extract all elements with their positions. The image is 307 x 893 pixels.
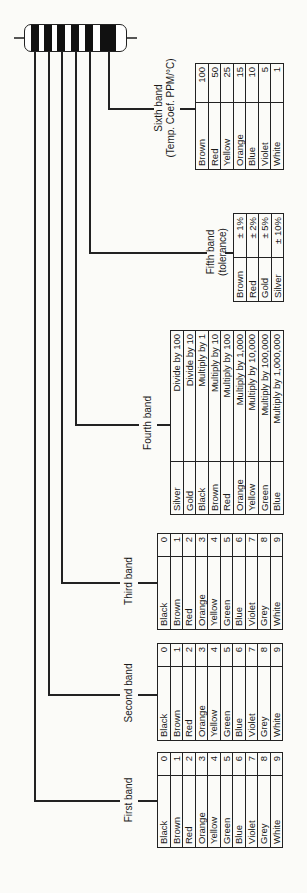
table-row: Orange3: [195, 753, 208, 848]
table-sixth-band: Brown100Red50Yellow25Orange15Blue10Viole…: [195, 63, 284, 170]
leader-line-1: [34, 52, 36, 801]
resistor-band-6: [100, 25, 116, 51]
table-fourth-band: SilverDivide by 100GoldDivide by 10Black…: [170, 330, 284, 515]
table-row: White9: [270, 534, 283, 630]
value-cell: 25: [221, 64, 234, 103]
value-cell: Multiply by 1,000,000: [271, 331, 284, 462]
color-cell: Red: [183, 775, 196, 847]
table-row: Black0: [158, 753, 171, 848]
label-second-band: Second band: [123, 658, 135, 728]
value-cell: 0: [158, 644, 171, 667]
table-row: Black0: [158, 644, 171, 741]
table-row: BrownMultiply by 10: [208, 331, 221, 515]
color-cell: Brown: [234, 257, 247, 301]
value-cell: 7: [245, 644, 258, 667]
table-row: YellowMultiply by 10,000: [246, 331, 259, 515]
resistor-lead-left: [14, 37, 24, 39]
label-fifth-band: Fifth band (tolerance): [205, 220, 229, 284]
table-row: Brown± 1%: [234, 214, 247, 302]
label-fifth-band-text: Fifth band: [205, 220, 217, 284]
label-first-band: First band: [123, 770, 135, 830]
color-cell: Brown: [208, 462, 221, 515]
value-cell: 6: [233, 644, 246, 667]
leader-h-3: [61, 582, 120, 584]
label-third-band: Third band: [123, 551, 135, 611]
value-cell: Divide by 100: [171, 331, 184, 462]
color-cell: Grey: [258, 775, 271, 847]
leader-h-2b: [138, 694, 157, 696]
leader-h-1b: [138, 800, 157, 802]
resistor-band-2: [44, 25, 52, 51]
table-row: BlackMultiply by 1: [196, 331, 209, 515]
value-cell: 7: [245, 534, 258, 557]
color-cell: Violet: [245, 775, 258, 847]
color-cell: Brown: [170, 775, 183, 847]
value-cell: 7: [245, 753, 258, 776]
value-cell: 9: [270, 644, 283, 667]
color-cell: Green: [220, 775, 233, 847]
color-cell: Black: [158, 667, 171, 741]
table-row: Orange3: [195, 644, 208, 741]
value-cell: 6: [233, 534, 246, 557]
label-fifth-band-sub: (tolerance): [217, 220, 229, 284]
table-row: Blue6: [233, 644, 246, 741]
leader-h-6b: [180, 108, 195, 110]
value-cell: 4: [208, 753, 221, 776]
leader-line-3: [61, 52, 63, 582]
label-first-band-text: First band: [123, 778, 134, 822]
color-cell: Violet: [245, 557, 258, 630]
table-row: Red50: [208, 64, 221, 170]
color-cell: Blue: [246, 103, 259, 170]
leader-h-6: [108, 108, 154, 110]
table-third-band: Black0Brown1Red2Orange3Yellow4Green5Blue…: [157, 533, 283, 630]
table-row: Red2: [183, 534, 196, 630]
color-cell: Green: [220, 557, 233, 630]
leader-h-1: [34, 800, 120, 802]
table-row: OrangeMultiply by 1,000: [233, 331, 246, 515]
value-cell: 6: [233, 753, 246, 776]
value-cell: ± 10%: [271, 214, 284, 258]
color-cell: White: [270, 557, 283, 630]
value-cell: 50: [208, 64, 221, 103]
color-cell: Black: [158, 557, 171, 630]
table-row: Brown1: [170, 644, 183, 741]
table-second-band: Black0Brown1Red2Orange3Yellow4Green5Blue…: [157, 643, 283, 741]
value-cell: 2: [183, 644, 196, 667]
label-third-band-text: Third band: [123, 557, 134, 605]
color-cell: Gold: [183, 462, 196, 515]
leader-h-3b: [138, 582, 157, 584]
table-row: White9: [270, 753, 283, 848]
value-cell: 0: [158, 753, 171, 776]
color-cell: Blue: [233, 775, 246, 847]
label-sixth-band: Sixth band (Temp. Coef. PPM/°C): [153, 52, 177, 164]
value-cell: 9: [270, 753, 283, 776]
table-row: GoldDivide by 10: [183, 331, 196, 515]
color-cell: Green: [220, 667, 233, 741]
color-cell: Silver: [271, 257, 284, 301]
label-second-band-text: Second band: [123, 664, 134, 723]
label-sixth-band-sub: (Temp. Coef. PPM/°C): [165, 52, 177, 164]
table-row: Grey8: [258, 644, 271, 741]
value-cell: Multiply by 1,000: [233, 331, 246, 462]
table-fifth-band: Brown± 1%Red± 2%Gold± 5%Silver± 10%: [233, 213, 284, 302]
value-cell: 10: [246, 64, 259, 103]
leader-line-6: [108, 52, 110, 108]
table-row: Blue10: [246, 64, 259, 170]
table-row: Yellow4: [208, 534, 221, 630]
value-cell: 5: [220, 644, 233, 667]
table-row: Silver± 10%: [271, 214, 284, 302]
value-cell: ± 1%: [234, 214, 247, 258]
table-row: Yellow25: [221, 64, 234, 170]
color-cell: Blue: [271, 462, 284, 515]
table-row: SilverDivide by 100: [171, 331, 184, 515]
color-cell: Grey: [258, 667, 271, 741]
table-row: White9: [270, 644, 283, 741]
value-cell: 3: [195, 534, 208, 557]
value-cell: 5: [220, 753, 233, 776]
color-cell: Orange: [195, 557, 208, 630]
resistor-band-1: [31, 25, 39, 51]
table-row: Green5: [220, 534, 233, 630]
resistor-band-4: [71, 25, 79, 51]
value-cell: 2: [183, 753, 196, 776]
value-cell: Multiply by 10: [208, 331, 221, 462]
